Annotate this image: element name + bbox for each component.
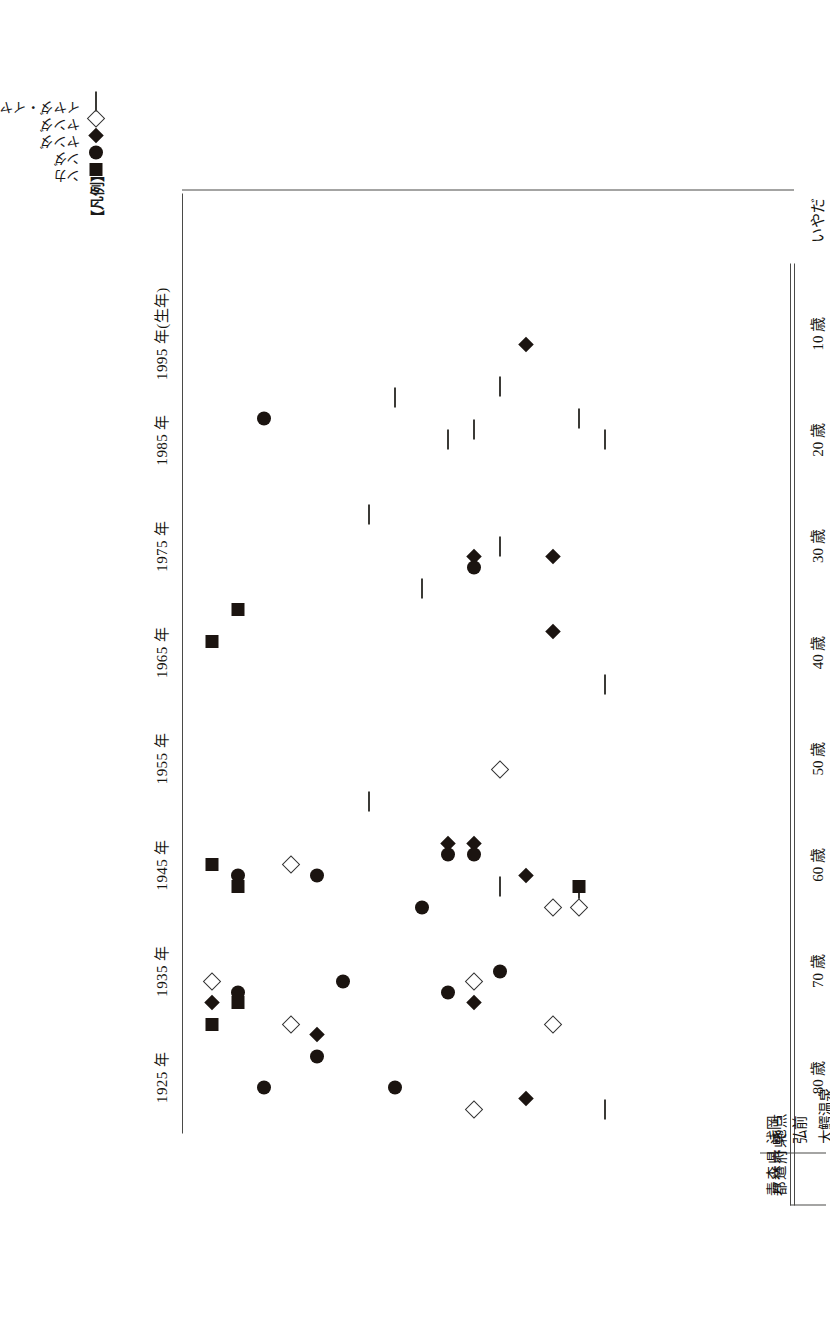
plot-right-edge: [182, 189, 794, 190]
year-tick-label: 1955 年: [150, 733, 171, 784]
legend-symbol-filled-square: [90, 163, 103, 176]
data-point-dash: [447, 429, 449, 449]
data-point-filled-circle: [441, 847, 455, 861]
data-point-open-diamond: [570, 898, 588, 916]
data-point-filled-square: [572, 879, 585, 892]
year-tick-label: 1965 年: [150, 626, 171, 677]
data-point-filled-circle: [467, 847, 481, 861]
age-tick-label: 50 歳: [806, 741, 827, 775]
data-point-filled-square: [206, 635, 219, 648]
age-tick-label: 60 歳: [806, 848, 827, 882]
data-point-dash: [578, 408, 580, 428]
data-point-open-diamond: [281, 1015, 299, 1033]
data-point-filled-circle: [388, 1081, 402, 1095]
data-point-dash: [473, 419, 475, 439]
data-point-filled-square: [232, 603, 245, 616]
data-point-dash: [604, 1099, 606, 1119]
data-point-open-diamond: [543, 1015, 561, 1033]
data-point-filled-circle: [310, 868, 324, 882]
data-point-filled-circle: [257, 411, 271, 425]
data-point-filled-diamond: [309, 1027, 325, 1043]
data-point-filled-diamond: [466, 995, 482, 1011]
data-point-filled-square: [232, 996, 245, 1009]
age-tick-label: 40 歳: [806, 635, 827, 669]
legend-symbol-dash: [95, 91, 97, 111]
data-point-open-diamond: [203, 972, 221, 990]
data-point-dash: [421, 578, 423, 598]
data-point-dash: [604, 429, 606, 449]
data-point-filled-circle: [336, 974, 350, 988]
data-point-filled-square: [232, 879, 245, 892]
data-point-dash: [604, 674, 606, 694]
year-tick-label: 1925 年: [150, 1051, 171, 1102]
data-point-filled-diamond: [545, 548, 561, 564]
legend-symbol-filled-diamond: [88, 127, 104, 143]
data-point-dash: [499, 536, 501, 556]
data-point-filled-square: [206, 858, 219, 871]
row-label: 弘前: [788, 1115, 809, 1143]
age-tick-label: 70 歳: [806, 954, 827, 988]
legend-symbol-filled-circle: [89, 145, 103, 159]
row-label: 大鰐温泉: [814, 1087, 830, 1143]
data-point-filled-circle: [415, 900, 429, 914]
data-point-open-diamond: [465, 972, 483, 990]
year-tick-label: 1995 年(生年): [150, 287, 171, 380]
age-tick-label: 20 歳: [806, 423, 827, 457]
data-point-filled-diamond: [545, 623, 561, 639]
data-point-filled-diamond: [519, 867, 535, 883]
row-label: 浅岡: [762, 1115, 783, 1143]
legend-symbol-open-diamond: [87, 109, 105, 127]
data-point-dash: [368, 791, 370, 811]
table-bottom-rule-outer: [790, 263, 791, 1205]
year-tick-label: 1945 年: [150, 839, 171, 890]
data-point-dash: [499, 376, 501, 396]
data-point-open-diamond: [465, 1100, 483, 1118]
data-point-filled-circle: [441, 985, 455, 999]
figure-canvas: 1925 年1935 年1945 年1955 年1965 年1975 年1985…: [0, 0, 830, 1323]
prefecture-label-0: 青森県: [762, 1147, 783, 1195]
data-point-open-diamond: [281, 855, 299, 873]
age-tick-label: 30 歳: [806, 529, 827, 563]
data-point-filled-circle: [467, 560, 481, 574]
data-point-filled-diamond: [204, 995, 220, 1011]
data-point-dash: [499, 876, 501, 896]
data-point-dash: [394, 387, 396, 407]
data-point-filled-circle: [310, 1049, 324, 1063]
year-tick-label: 1985 年: [150, 414, 171, 465]
data-point-open-diamond: [491, 760, 509, 778]
data-point-dash: [368, 504, 370, 524]
year-tick-label: 1935 年: [150, 945, 171, 996]
data-point-open-diamond: [543, 898, 561, 916]
age-axis-title: いやだ: [806, 197, 827, 242]
data-point-filled-square: [206, 1017, 219, 1030]
table-left-edge: [790, 1204, 826, 1205]
scatter-plot-area: 1925 年1935 年1945 年1955 年1965 年1975 年1985…: [0, 0, 830, 1323]
year-tick-label: 1975 年: [150, 520, 171, 571]
year-axis-line: [182, 193, 183, 1133]
data-point-filled-diamond: [519, 1090, 535, 1106]
data-point-filled-circle: [493, 964, 507, 978]
data-point-filled-circle: [257, 1081, 271, 1095]
data-point-filled-diamond: [519, 336, 535, 352]
table-bottom-rule-inner: [794, 263, 795, 1205]
age-tick-label: 10 歳: [806, 316, 827, 350]
legend-label: イヤダ・イヤ・ヤダ: [0, 98, 80, 118]
